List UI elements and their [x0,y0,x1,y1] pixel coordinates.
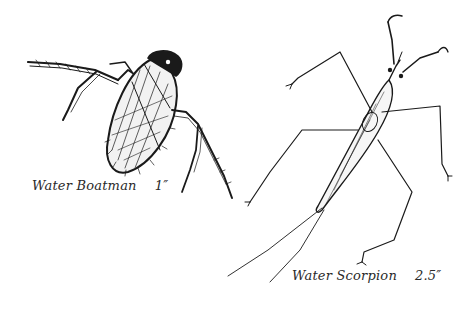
water-scorpion-drawing-icon [0,0,476,309]
specimen-size: 2.5″ [415,268,441,283]
specimen-name: Water Boatman [32,178,137,193]
water-boatman-label: Water Boatman1″ [32,178,168,193]
specimen-size: 1″ [155,178,169,193]
illustration-canvas: Water Boatman1″ Water Scorpion2.5″ [0,0,476,309]
water-scorpion-label: Water Scorpion2.5″ [292,268,441,283]
specimen-name: Water Scorpion [292,268,397,283]
